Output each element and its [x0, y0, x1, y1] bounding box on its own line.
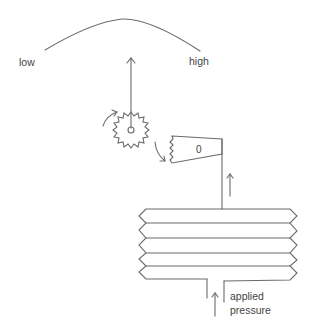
bellows: [139, 209, 297, 281]
applied-pressure-label-line1: applied: [230, 290, 264, 302]
scale-high-label: high: [189, 55, 209, 67]
rack-motion-arrow-icon: [155, 142, 165, 161]
scale-arc: [45, 19, 200, 51]
diagram-svg: low high 0: [0, 0, 315, 333]
applied-pressure-label-line2: pressure: [230, 304, 271, 316]
rack-value-label: 0: [196, 144, 202, 155]
bellows-outline: [139, 209, 297, 281]
scale-low-label: low: [19, 56, 35, 68]
gauge-diagram: low high 0: [0, 0, 315, 333]
